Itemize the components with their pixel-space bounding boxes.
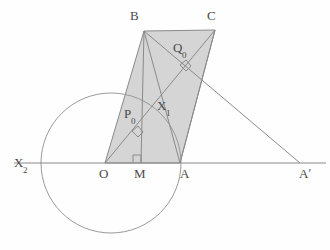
point-label-c-text: C [207,8,216,23]
point-label-b-text: B [130,8,139,23]
point-label-m: M [134,167,146,180]
point-label-a-text: A [180,166,190,181]
geometry-figure: B C Q0 X1 P0 X2 O M A A′ [0,0,330,250]
point-label-o: O [99,167,109,180]
point-label-m-text: M [134,166,146,181]
point-label-p0-subscript: 0 [131,116,136,126]
point-label-o-text: O [99,166,109,181]
point-label-x2: X2 [14,156,28,173]
point-label-q0: Q0 [173,41,187,58]
point-label-p0: P0 [124,107,136,124]
point-label-b: B [130,9,139,22]
point-label-a: A [180,167,190,180]
point-label-x2-subscript: 2 [23,165,28,175]
point-label-x1: X1 [157,99,171,116]
point-label-aprime: A′ [299,167,311,180]
point-label-aprime-mark: ′ [309,166,312,180]
point-label-aprime-text: A [299,166,309,181]
point-label-q0-subscript: 0 [182,50,187,60]
point-label-c: C [207,9,216,22]
geometry-canvas [0,0,330,250]
point-label-x1-subscript: 1 [166,108,171,118]
